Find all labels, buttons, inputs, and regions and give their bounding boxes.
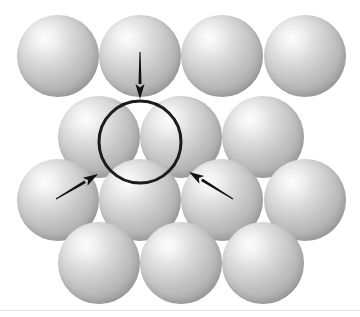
- sphere: [99, 15, 181, 97]
- sphere: [264, 15, 346, 97]
- sphere: [58, 222, 140, 304]
- baseline-divider: [0, 310, 360, 311]
- sphere: [222, 222, 304, 304]
- sphere: [17, 15, 99, 97]
- sphere-packing-figure: [0, 0, 360, 317]
- sphere-layer: [0, 0, 360, 317]
- sphere: [181, 15, 263, 97]
- sphere: [140, 222, 222, 304]
